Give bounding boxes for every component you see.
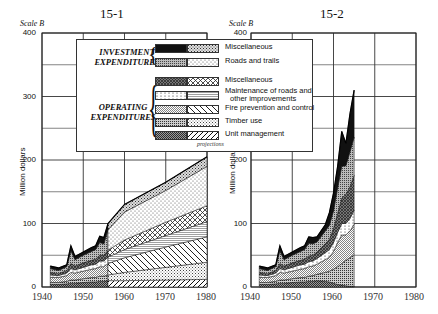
swatch-wide-diagonal-icon [187, 105, 219, 114]
swatch-horizontal-lines-icon [187, 91, 219, 100]
chart-15-1-xtick-1960: 1960 [109, 291, 139, 302]
chart-15-2-ytick-0: 0 [225, 282, 247, 291]
swatch-diamond-crosshatch-icon [187, 77, 219, 86]
chart-15-1-areas [50, 157, 207, 287]
legend-label: Roads and trails [225, 57, 279, 65]
legend-item-operating-maintenance: Maintenance of roads and other improveme… [155, 91, 305, 100]
legend-label-multiline: Maintenance of roads and other improveme… [225, 87, 312, 103]
legend-item-operating-fire-prevention: Fire prevention and control [155, 105, 305, 114]
legend-item-operating-miscellaneous: Miscellaneous [155, 77, 305, 86]
chart-15-1-ytick-400: 400 [14, 28, 36, 37]
chart-15-1-ylabel: Million dollars [18, 148, 27, 196]
chart-15-2-title: 15-2 [320, 6, 344, 22]
chart-15-1-ytick-100: 100 [14, 219, 36, 228]
chart-15-1-xtick-1940: 1940 [27, 291, 57, 302]
legend-label: Fire prevention and control [225, 104, 314, 112]
chart-15-2-ytick-400: 400 [225, 28, 247, 37]
legend: INVESTMENT EXPENDITURES { OPERATING EXPE… [76, 39, 313, 152]
chart-15-1-title: 15-1 [100, 6, 124, 22]
legend-label: Unit management [225, 130, 284, 138]
chart-15-2-ytick-100: 100 [225, 219, 247, 228]
chart-15-1-xtick-1970: 1970 [150, 291, 180, 302]
swatch-solid-black-icon [155, 44, 187, 53]
swatch-dense-dots-icon [155, 58, 187, 67]
legend-label: Miscellaneous [225, 76, 273, 84]
chart-15-2-xtick-1980: 1980 [399, 291, 429, 302]
chart-15-1-ytick-300: 300 [14, 92, 36, 101]
legend-item-operating-unit-management: Unit management [155, 131, 305, 140]
chart-15-2-ylabel: Million dollars [228, 146, 237, 194]
swatch-fine-stipple-icon [187, 44, 219, 53]
swatch-dark-crosshatch-icon [155, 77, 187, 86]
chart-15-1-ytick-0: 0 [14, 282, 36, 291]
chart-15-1-xtick-1950: 1950 [68, 291, 98, 302]
projections-label: projections [197, 141, 224, 147]
legend-item-investment-roads-and-trails: Roads and trails [155, 58, 305, 67]
chart-15-2-xtick-1950: 1950 [276, 291, 306, 302]
chart-15-1-scale-label: Scale B [20, 19, 44, 28]
swatch-grid-dots-icon [155, 118, 187, 127]
legend-item-operating-timber-use: Timber use [155, 118, 305, 127]
chart-15-2-xtick-1960: 1960 [317, 291, 347, 302]
swatch-dark-diagonal-icon [155, 131, 187, 140]
legend-label-line2: other improvements [225, 95, 312, 103]
swatch-fine-grid-icon [187, 118, 219, 127]
legend-label: Miscellaneous [225, 43, 273, 51]
chart-15-2-xtick-1970: 1970 [358, 291, 388, 302]
swatch-fine-diagonal-icon [155, 105, 187, 114]
chart-15-2-xtick-1940: 1940 [235, 291, 265, 302]
legend-item-investment-miscellaneous: Miscellaneous [155, 44, 305, 53]
chart-15-2-scale-label: Scale B [229, 19, 253, 28]
swatch-sparse-dots-icon [155, 91, 187, 100]
swatch-forward-slash-icon [187, 131, 219, 140]
chart-15-1-xtick-1980: 1980 [191, 291, 221, 302]
legend-label: Timber use [225, 117, 262, 125]
swatch-light-dots-icon [187, 58, 219, 67]
